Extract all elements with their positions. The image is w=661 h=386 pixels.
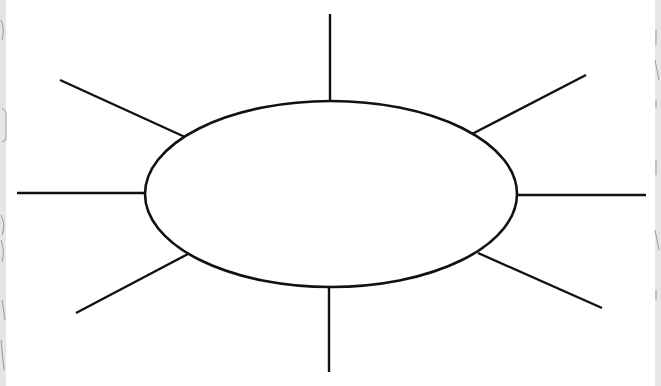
center-oval bbox=[145, 101, 517, 287]
spoke-upper-left bbox=[60, 80, 185, 137]
spoke-lower-right bbox=[478, 253, 602, 308]
spoke-upper-right bbox=[472, 75, 586, 134]
spider-map-diagram bbox=[0, 0, 661, 386]
spoke-lower-left bbox=[76, 254, 188, 313]
